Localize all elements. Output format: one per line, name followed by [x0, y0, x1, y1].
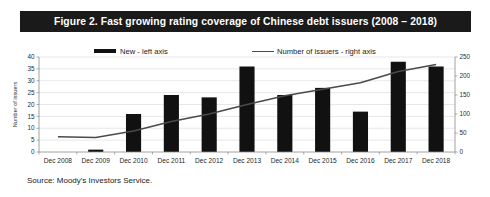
chart-bars [88, 62, 443, 152]
left-tick-30: 30 [27, 77, 35, 84]
left-tick-0: 0 [31, 148, 35, 155]
x-tick-dec-2017: Dec 2017 [384, 157, 413, 164]
x-tick-dec-2008: Dec 2008 [44, 157, 73, 164]
right-tick-150: 150 [460, 91, 471, 98]
bar-dec-2015 [315, 88, 330, 152]
left-tick-15: 15 [27, 113, 35, 120]
x-tick-dec-2013: Dec 2013 [233, 157, 262, 164]
left-tick-40: 40 [27, 53, 35, 60]
chart-right-axis-ticks: 050100150200250 [455, 53, 471, 155]
chart-plot-area: 0510152025303540 050100150200250 Dec 200… [0, 0, 490, 197]
bar-dec-2010 [126, 114, 141, 152]
bar-dec-2017 [391, 62, 406, 152]
left-tick-35: 35 [27, 65, 35, 72]
y-axis-title-text: Number of issuers [12, 82, 18, 128]
bar-dec-2013 [239, 67, 254, 153]
bar-dec-2014 [277, 95, 292, 152]
chart-y-axis-title: Number of issuers [12, 82, 18, 128]
x-tick-dec-2018: Dec 2018 [422, 157, 451, 164]
right-tick-100: 100 [460, 110, 471, 117]
x-tick-dec-2015: Dec 2015 [309, 157, 338, 164]
chart-x-axis-ticks: Dec 2008Dec 2009Dec 2010Dec 2011Dec 2012… [39, 152, 455, 164]
right-tick-200: 200 [460, 72, 471, 79]
right-tick-250: 250 [460, 53, 471, 60]
x-tick-dec-2014: Dec 2014 [271, 157, 300, 164]
figure-container: Figure 2. Fast growing rating coverage o… [0, 0, 490, 197]
x-tick-dec-2012: Dec 2012 [195, 157, 224, 164]
left-tick-20: 20 [27, 101, 35, 108]
bar-dec-2018 [429, 67, 444, 153]
x-tick-dec-2016: Dec 2016 [346, 157, 375, 164]
left-tick-5: 5 [31, 136, 35, 143]
left-tick-10: 10 [27, 124, 35, 131]
right-tick-50: 50 [460, 129, 468, 136]
x-tick-dec-2010: Dec 2010 [119, 157, 148, 164]
right-tick-0: 0 [460, 148, 464, 155]
x-tick-dec-2009: Dec 2009 [82, 157, 111, 164]
left-tick-25: 25 [27, 89, 35, 96]
source-note: Source: Moody's Investors Service. [27, 176, 152, 185]
bar-dec-2016 [353, 112, 368, 152]
chart-svg: 0510152025303540 050100150200250 Dec 200… [0, 0, 490, 197]
bar-dec-2012 [202, 97, 217, 152]
x-tick-dec-2011: Dec 2011 [157, 157, 185, 164]
chart-left-axis-ticks: 0510152025303540 [27, 53, 39, 155]
